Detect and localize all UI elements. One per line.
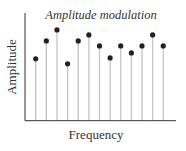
stem-marker [129,50,134,55]
stem-marker [118,43,123,48]
y-axis-label: Amplitude [4,39,19,95]
stem-marker [97,43,102,48]
stem-marker [86,32,91,37]
stem-marker [76,38,81,43]
stem-marker [161,43,166,48]
stem-series [33,27,166,120]
stem-marker [108,55,113,60]
stem-marker [150,32,155,37]
stem-marker [44,38,49,43]
x-axis-label: Frequency [69,127,124,142]
stem-marker [65,61,70,66]
stem-marker [33,56,38,61]
chart-title: Amplitude modulation [44,8,156,22]
stem-chart: Amplitude modulation Frequency Amplitude [0,0,186,151]
stem-marker [139,43,144,48]
stem-marker [54,27,59,32]
